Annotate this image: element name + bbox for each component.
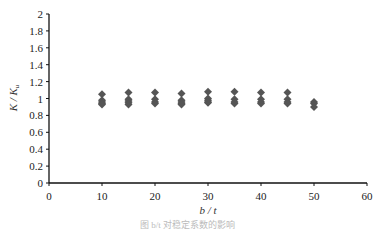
x-tick-label: 10 bbox=[97, 190, 109, 202]
axes: 00.20.40.60.811.21.41.61.820102030405060 bbox=[29, 8, 373, 202]
x-tick-label: 50 bbox=[309, 190, 321, 202]
y-tick-label: 1.4 bbox=[29, 59, 43, 71]
diamond-marker bbox=[231, 88, 239, 96]
y-tick-label: 1 bbox=[38, 93, 44, 105]
y-tick-label: 1.2 bbox=[29, 76, 43, 88]
x-tick-label: 40 bbox=[256, 190, 268, 202]
y-tick-label: 0.4 bbox=[29, 143, 43, 155]
y-tick-label: 1.8 bbox=[29, 25, 43, 37]
y-tick-label: 0.8 bbox=[29, 109, 43, 121]
y-tick-label: 0.2 bbox=[29, 160, 43, 172]
data-points bbox=[98, 88, 318, 111]
x-axis-title: b / t bbox=[199, 204, 217, 216]
figure-caption: 图 b/t 对稳定系数的影响 bbox=[0, 218, 375, 231]
svg-text:K / Ku: K / Ku bbox=[7, 84, 21, 112]
y-tick-label: 1.6 bbox=[29, 42, 43, 54]
y-tick-label: 0.6 bbox=[29, 126, 43, 138]
scatter-chart: 00.20.40.60.811.21.41.61.820102030405060… bbox=[0, 0, 375, 234]
x-tick-label: 0 bbox=[46, 190, 52, 202]
x-tick-label: 30 bbox=[203, 190, 215, 202]
y-tick-label: 0 bbox=[38, 177, 44, 189]
x-tick-label: 60 bbox=[362, 190, 374, 202]
y-axis-title: K / Ku bbox=[7, 84, 21, 112]
x-tick-label: 20 bbox=[150, 190, 162, 202]
y-tick-label: 2 bbox=[38, 8, 44, 20]
